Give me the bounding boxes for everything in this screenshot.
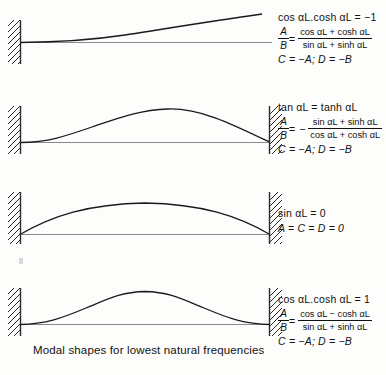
coefficient-relations: A = C = D = 0: [278, 221, 344, 234]
panel-3: sin αL = 0 A = C = D = 0: [0, 176, 386, 264]
ratio-expression: sin αL + sinh αL cos αL + cosh αL: [308, 117, 382, 141]
amplitude-ratio-equation: A B = cos αL + cosh αL sin αL + sinh αL: [278, 26, 376, 51]
mode-shape-curve: [20, 14, 262, 43]
frequency-equation: sin αL = 0: [278, 208, 344, 221]
panel-2-diagram: [0, 88, 290, 176]
coefficient-relations: C = −A; D = −B: [278, 142, 382, 155]
amplitude-ratio-equation: A B = − sin αL + sinh αL cos αL + cosh α…: [278, 116, 382, 141]
coefficient-relations: C = −A; D = −B: [278, 334, 372, 347]
ratio-A-over-B: A B: [278, 308, 289, 333]
ratio-A-over-B: A B: [278, 26, 289, 51]
panel-2-formulas: tan αL = tanh αL A B = − sin αL + sinh α…: [278, 102, 382, 155]
panel-4: cos αL.cosh αL = 1 A B = cos αL − cosh α…: [0, 264, 386, 375]
amplitude-ratio-equation: A B = cos αL − cosh αL sin αL + sinh αL: [278, 308, 372, 333]
fraction-bar: [298, 38, 372, 39]
mode-shape-curve: [20, 292, 270, 325]
fraction-bar: [308, 128, 382, 129]
panel-1-formulas: cos αL.cosh αL = −1 A B = cos αL + cosh …: [278, 12, 376, 65]
minus-sign: −: [299, 123, 305, 135]
panel-1: cos αL.cosh αL = −1 A B = cos αL + cosh …: [0, 0, 386, 88]
fraction-bar: [278, 128, 289, 129]
frequency-equation: cos αL.cosh αL = −1: [278, 12, 376, 25]
coefficient-relations: C = −A; D = −B: [278, 52, 376, 65]
frequency-equation: cos αL.cosh αL = 1: [278, 294, 372, 307]
mode-shape-curve: [20, 109, 270, 143]
panel-4-formulas: cos αL.cosh αL = 1 A B = cos αL − cosh α…: [278, 294, 372, 347]
equals-sign: =: [289, 123, 295, 135]
panel-2: tan αL = tanh αL A B = − sin αL + sinh α…: [0, 88, 386, 176]
fraction-bar: [298, 320, 372, 321]
left-wall-hatching: [4, 184, 22, 256]
mode-shape-curve: [20, 203, 270, 235]
frequency-equation: tan αL = tanh αL: [278, 102, 382, 115]
panel-1-diagram: [0, 0, 290, 88]
ratio-A-over-B: A B: [278, 116, 289, 141]
ratio-expression: cos αL − cosh αL sin αL + sinh αL: [298, 309, 372, 333]
left-wall-hatching: [4, 12, 22, 78]
fraction-bar: [278, 38, 289, 39]
panel-3-diagram: [0, 176, 290, 264]
equals-sign: =: [289, 33, 295, 45]
panel-4-diagram: [0, 264, 290, 356]
ratio-expression: cos αL + cosh αL sin αL + sinh αL: [298, 27, 372, 51]
left-wall-hatching: [4, 280, 22, 346]
left-wall-hatching: [4, 98, 22, 164]
fraction-bar: [278, 320, 289, 321]
figure-root: cos αL.cosh αL = −1 A B = cos αL + cosh …: [0, 0, 386, 375]
panel-3-formulas: sin αL = 0 A = C = D = 0: [278, 208, 344, 234]
figure-caption: Modal shapes for lowest natural frequenc…: [33, 344, 264, 356]
equals-sign: =: [289, 315, 295, 327]
